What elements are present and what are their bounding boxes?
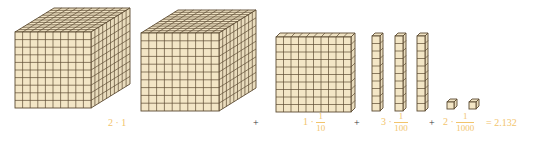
unit-cube-2: [469, 99, 479, 109]
equation-result: = 2.132: [486, 118, 517, 128]
thousand-cube-2: [141, 10, 256, 111]
ten-rod-1: [372, 33, 383, 111]
coef: 2: [108, 117, 113, 128]
term-hundredths-label: 3 · 1 100: [381, 112, 408, 133]
coef: 3: [381, 116, 386, 127]
denominator: 1000: [456, 123, 474, 133]
coef: 1: [303, 116, 308, 127]
numerator: 1: [316, 112, 325, 123]
fraction: 1 1000: [456, 112, 474, 133]
coef: 2: [443, 116, 448, 127]
value: 1: [121, 117, 126, 128]
numerator: 1: [456, 112, 474, 123]
dot: ·: [389, 116, 392, 127]
hundred-flat: [276, 33, 355, 112]
plus-sign-3: +: [429, 118, 435, 128]
plus-sign-1: +: [253, 118, 259, 128]
ten-rod-3: [417, 33, 428, 111]
term-thousands-label: 2 · 1: [108, 118, 126, 128]
denominator: 10: [316, 123, 325, 133]
plus-sign-2: +: [354, 118, 360, 128]
dot: ·: [451, 116, 454, 127]
ten-rod-2: [395, 33, 406, 111]
unit-cube-1: [447, 99, 457, 109]
thousand-cube-1: [15, 8, 130, 108]
fraction: 1 10: [316, 112, 325, 133]
denominator: 100: [394, 123, 408, 133]
dot: ·: [116, 117, 119, 128]
numerator: 1: [394, 112, 408, 123]
dot: ·: [311, 116, 314, 127]
term-tenths-label: 1 · 1 10: [303, 112, 325, 133]
fraction: 1 100: [394, 112, 408, 133]
term-thousandths-label: 2 · 1 1000: [443, 112, 474, 133]
